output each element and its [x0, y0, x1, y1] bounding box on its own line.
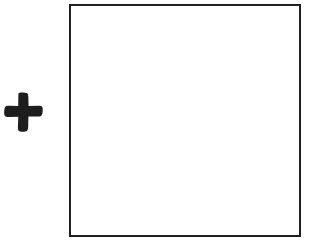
- plus-glyph: [4, 92, 43, 132]
- square-interior: [71, 6, 299, 235]
- plus-icon: [4, 92, 43, 132]
- empty-square: [69, 4, 301, 237]
- figure-canvas: [0, 0, 310, 242]
